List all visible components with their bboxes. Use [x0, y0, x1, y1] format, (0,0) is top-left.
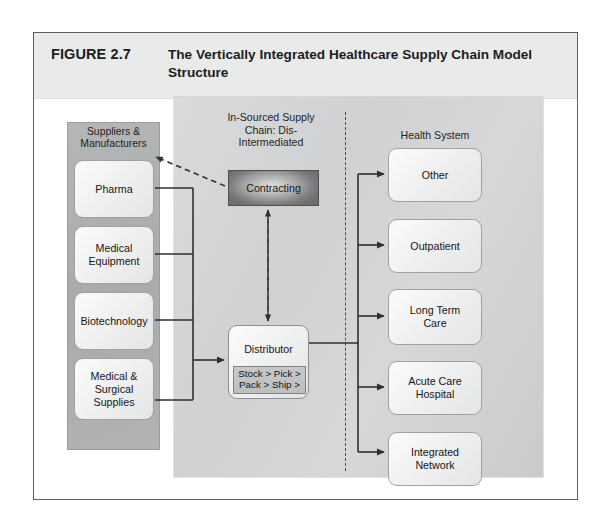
node-medical-equipment[interactable]: Medical Equipment [74, 226, 154, 284]
node-other[interactable]: Other [388, 148, 482, 202]
in-sourced-supply-chain-heading: In-Sourced Supply Chain: Dis- Intermedia… [196, 111, 346, 149]
suppliers-manufacturers-heading: Suppliers & Manufacturers [68, 126, 159, 151]
node-medical-surgical-supplies[interactable]: Medical & Surgical Supplies [74, 358, 154, 420]
figure-number: FIGURE 2.7 [51, 46, 131, 62]
in-sourced-supply-chain-panel [174, 97, 543, 477]
node-biotechnology[interactable]: Biotechnology [74, 292, 154, 350]
node-outpatient[interactable]: Outpatient [388, 219, 482, 273]
node-acute-care-hospital[interactable]: Acute Care Hospital [388, 361, 482, 415]
node-distributor[interactable]: Distributor Stock > Pick > Pack > Ship > [228, 325, 309, 399]
figure-title: The Vertically Integrated Healthcare Sup… [168, 46, 560, 82]
distributor-label: Distributor [229, 343, 308, 355]
figure-title-band: FIGURE 2.7 The Vertically Integrated Hea… [34, 33, 577, 99]
node-integrated-network[interactable]: Integrated Network [388, 432, 482, 486]
health-system-heading: Health System [385, 129, 485, 142]
dashed-divider [345, 112, 346, 471]
distributor-steps: Stock > Pick > Pack > Ship > [233, 366, 306, 394]
node-contracting[interactable]: Contracting [228, 170, 319, 206]
figure-root: FIGURE 2.7 The Vertically Integrated Hea… [0, 0, 609, 527]
node-pharma[interactable]: Pharma [74, 160, 154, 218]
node-long-term-care[interactable]: Long Term Care [388, 289, 482, 345]
